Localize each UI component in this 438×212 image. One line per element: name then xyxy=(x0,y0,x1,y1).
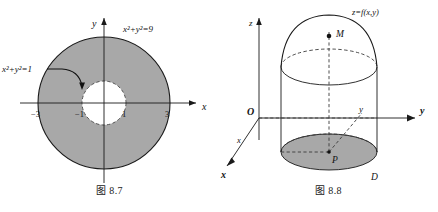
figure-8-7-caption: 图 8.7 xyxy=(0,182,219,197)
figure-8-7: x y −3 −1 1 3 x²+y²=9 x²+y²=1 图 8.7 xyxy=(0,0,219,212)
domain-label-D: D xyxy=(370,172,378,182)
x-axis-inner-label: x xyxy=(236,135,241,145)
outer-circle-equation-label: x²+y²=9 xyxy=(122,24,154,34)
y-axis-label: y xyxy=(419,105,425,116)
z-axis-arrow xyxy=(256,18,262,25)
figure-8-8-caption: 图 8.8 xyxy=(219,182,438,197)
tick-label-neg3: −3 xyxy=(31,109,40,119)
tick-label-neg1: −1 xyxy=(75,109,84,119)
cylinder-rim-back xyxy=(281,49,377,67)
point-p-dot xyxy=(327,150,331,154)
origin-label: O xyxy=(247,106,254,117)
y-axis-arrow xyxy=(407,115,415,122)
x-axis-label: x xyxy=(220,169,226,180)
y-axis-label: y xyxy=(91,18,97,29)
point-p-label: P xyxy=(331,155,338,165)
tick-label-pos3: 3 xyxy=(165,109,169,119)
z-axis-label: z xyxy=(248,18,253,28)
point-m-label: M xyxy=(335,29,345,39)
figure-page: x y −3 −1 1 3 x²+y²=9 x²+y²=1 图 8.7 xyxy=(0,0,438,212)
point-m-dot xyxy=(327,34,332,39)
x-axis-label: x xyxy=(201,101,207,112)
x-axis-arrow xyxy=(227,158,235,167)
figure-8-8: z=f(x,y) z y x x O y xyxy=(219,0,438,212)
tick-label-pos1: 1 xyxy=(122,109,126,119)
inner-circle-equation-label: x²+y²=1 xyxy=(1,64,32,74)
y-axis-inner-label: y xyxy=(358,104,363,114)
annulus-region xyxy=(0,0,219,190)
figure-8-7-canvas: x y −3 −1 1 3 x²+y²=9 x²+y²=1 xyxy=(0,0,219,190)
figure-8-8-canvas: z=f(x,y) z y x x O y xyxy=(219,0,438,190)
surface-equation-label: z=f(x,y) xyxy=(351,7,379,17)
